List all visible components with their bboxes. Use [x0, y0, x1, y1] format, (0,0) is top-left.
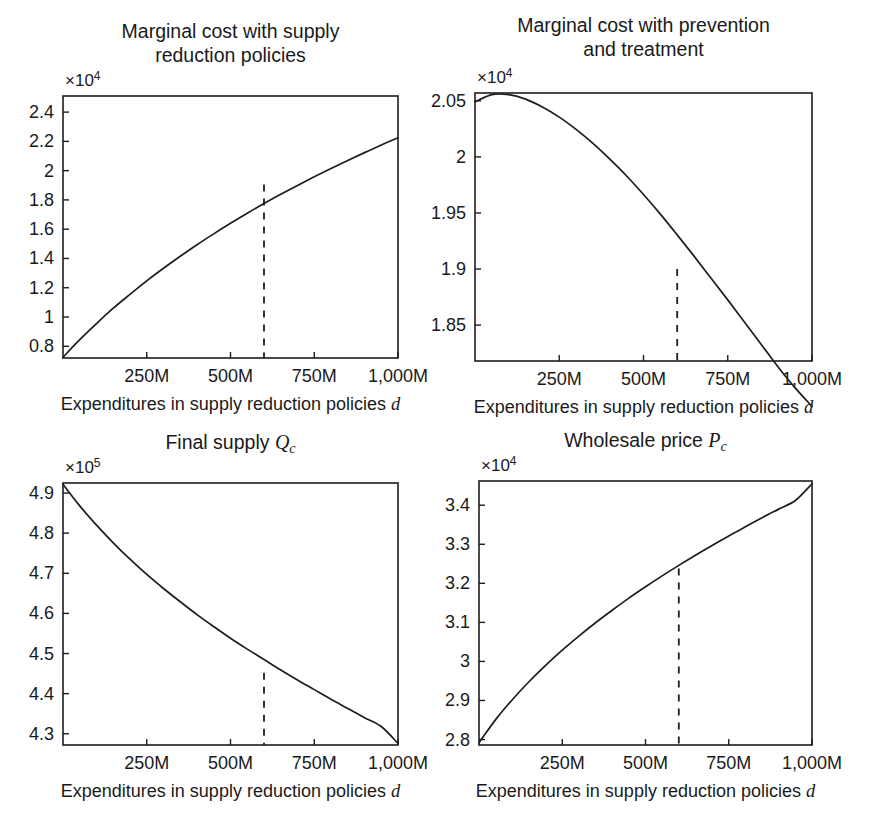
y-axis-exponent-label: ×105 [65, 456, 101, 477]
y-tick-label: 2.05 [431, 91, 466, 111]
plot-frame [63, 483, 398, 745]
y-tick-label: 3.3 [445, 534, 470, 554]
y-tick-label: 4.5 [29, 644, 54, 664]
plot-frame [479, 481, 812, 745]
x-tick-label: 250M [124, 366, 169, 386]
chart-title: Final supply Qc [165, 431, 296, 456]
y-tick-label: 2.4 [29, 102, 54, 122]
y-tick-label: 1.85 [431, 315, 466, 335]
y-tick-label: 4.9 [29, 483, 54, 503]
y-tick-label: 0.8 [29, 336, 54, 356]
y-tick-label: 3 [460, 651, 470, 671]
y-tick-label: 1.9 [441, 259, 466, 279]
x-tick-label: 750M [706, 753, 751, 773]
y-tick-label: 4.3 [29, 724, 54, 744]
y-tick-label: 1.8 [29, 190, 54, 210]
y-tick-label: 3.1 [445, 612, 470, 632]
y-tick-label: 4.8 [29, 523, 54, 543]
x-tick-label: 750M [292, 753, 337, 773]
chart-title-line: Marginal cost with supply [122, 20, 340, 42]
x-tick-label: 500M [208, 366, 253, 386]
y-tick-label: 4.4 [29, 684, 54, 704]
y-tick-label: 1.4 [29, 248, 54, 268]
chart-panel-marginal-cost-prevention-treatment: 1.851.91.9522.05250M500M750M1,000M×104Ma… [412, 23, 834, 427]
x-tick-label: 1,000M [782, 753, 842, 773]
x-tick-label: 250M [540, 753, 585, 773]
y-tick-label: 2 [456, 147, 466, 167]
x-axis-title: Expenditures in supply reduction policie… [61, 394, 401, 414]
y-axis-exponent-label: ×104 [65, 69, 101, 90]
plot-frame [63, 96, 398, 358]
y-tick-label: 4.6 [29, 603, 54, 623]
y-tick-label: 3.2 [445, 573, 470, 593]
x-tick-label: 1,000M [782, 369, 842, 389]
plot-frame [475, 93, 812, 361]
y-tick-label: 2.9 [445, 690, 470, 710]
chart-title: Wholesale price Pc [564, 429, 727, 454]
y-tick-label: 2.8 [445, 730, 470, 750]
y-tick-label: 1 [44, 307, 54, 327]
x-tick-label: 500M [621, 369, 666, 389]
y-tick-label: 1.6 [29, 219, 54, 239]
y-tick-label: 4.7 [29, 563, 54, 583]
four-panel-figure: 0.811.21.41.61.822.22.4250M500M750M1,000… [0, 0, 871, 828]
x-tick-label: 750M [705, 369, 750, 389]
chart-panel-wholesale-price-pc: 2.82.933.13.23.33.4250M500M750M1,000M×10… [416, 411, 834, 811]
data-curve [63, 138, 398, 358]
data-curve [63, 484, 398, 743]
x-tick-label: 500M [623, 753, 668, 773]
y-tick-label: 2 [44, 161, 54, 181]
x-tick-label: 250M [124, 753, 169, 773]
y-axis-exponent-label: ×104 [481, 454, 517, 475]
x-axis-title: Expenditures in supply reduction policie… [476, 781, 816, 801]
chart-title-line: and treatment [583, 38, 704, 60]
chart-title-line: reduction policies [155, 44, 306, 66]
x-tick-label: 750M [292, 366, 337, 386]
chart-title-line: Marginal cost with prevention [517, 14, 770, 36]
x-tick-label: 250M [537, 369, 582, 389]
y-tick-label: 2.2 [29, 131, 54, 151]
data-curve [479, 484, 812, 743]
y-tick-label: 1.95 [431, 203, 466, 223]
chart-panel-marginal-cost-supply-reduction: 0.811.21.41.61.822.22.4250M500M750M1,000… [0, 26, 420, 424]
y-axis-exponent-label: ×104 [477, 66, 513, 87]
x-axis-title: Expenditures in supply reduction policie… [61, 781, 401, 801]
y-tick-label: 3.4 [445, 495, 470, 515]
x-tick-label: 500M [208, 753, 253, 773]
chart-panel-final-supply-qc: 4.34.44.54.64.74.84.9250M500M750M1,000M×… [0, 413, 420, 811]
y-tick-label: 1.2 [29, 278, 54, 298]
